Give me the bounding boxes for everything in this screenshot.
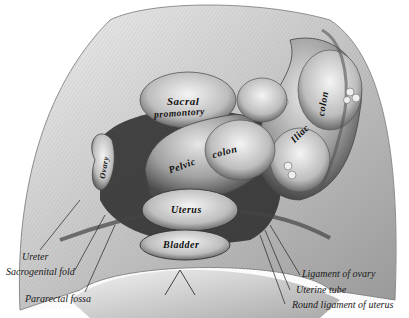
label-sacral: Sacral: [167, 95, 199, 107]
label-uterus: Uterus: [171, 204, 202, 215]
label-uterine-tube: Uterine tube: [296, 284, 346, 295]
label-bladder: Bladder: [163, 239, 199, 250]
label-ureter: Ureter: [22, 251, 48, 262]
label-ligament-of-ovary: Ligament of ovary: [302, 268, 375, 279]
label-sacrogenital-fold: Sacrogenital fold: [6, 266, 75, 277]
label-round-ligament: Round ligament of uterus: [292, 299, 393, 310]
anatomical-figure: Sacral promontory Pelvic colon Iliac col…: [0, 0, 409, 318]
label-pararectal-fossa: Pararectal fossa: [25, 293, 91, 304]
